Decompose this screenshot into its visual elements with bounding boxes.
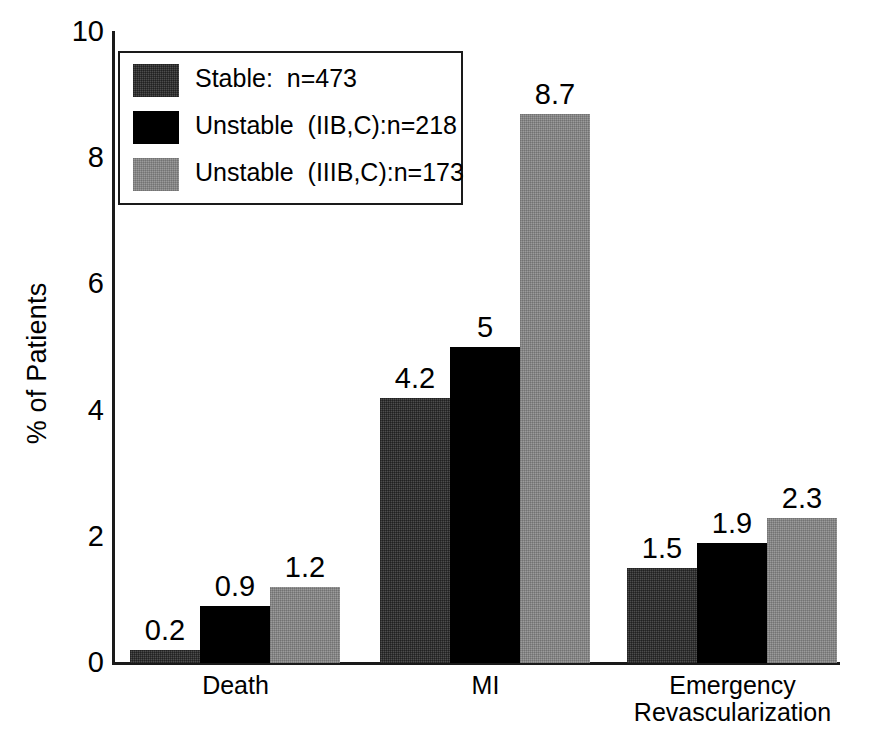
legend-label-unstable-iiib-c: Unstable (IIIB,C):n=173 <box>195 156 464 189</box>
x-category-emergency-line1: Emergency <box>627 672 838 699</box>
legend-label-unstable-iib-c: Unstable (IIB,C):n=218 <box>195 109 457 142</box>
y-tick-2: 2 <box>20 522 104 551</box>
legend-swatch-unstable-iib-c-icon <box>133 111 179 144</box>
x-category-death: Death <box>130 672 341 699</box>
bar-label-emergency-unstable2: 1.9 <box>687 509 777 538</box>
bar-label-death-stable: 0.2 <box>120 616 210 645</box>
legend-swatch-stable-icon <box>133 64 179 97</box>
y-tick-6: 6 <box>20 269 104 298</box>
y-axis-ticks: 10 8 6 4 2 0 <box>0 0 104 751</box>
x-category-emergency-revascularization: Emergency Revascularization <box>627 672 838 726</box>
bar-label-mi-unstable2: 5 <box>440 313 530 342</box>
x-category-mi-line1: MI <box>380 672 591 699</box>
legend-swatch-unstable-iiib-c-icon <box>133 158 179 191</box>
bar-label-emergency-unstable3: 2.3 <box>757 484 847 513</box>
y-tick-4: 4 <box>20 396 104 425</box>
y-tick-8: 8 <box>20 143 104 172</box>
bar-label-death-unstable3: 1.2 <box>260 553 350 582</box>
bar-death-unstable2[interactable] <box>200 606 270 663</box>
x-category-death-line1: Death <box>130 672 341 699</box>
bar-label-mi-unstable3: 8.7 <box>510 80 600 109</box>
x-category-mi: MI <box>380 672 591 699</box>
bar-death-unstable3[interactable] <box>270 587 340 663</box>
bar-label-emergency-stable: 1.5 <box>617 534 707 563</box>
bar-label-mi-stable: 4.2 <box>370 364 460 393</box>
bar-mi-unstable3[interactable] <box>520 114 590 663</box>
bar-emergency-unstable3[interactable] <box>767 518 837 663</box>
bar-emergency-unstable2[interactable] <box>697 543 767 663</box>
y-tick-10: 10 <box>20 17 104 46</box>
legend-label-stable: Stable: n=473 <box>195 62 357 95</box>
legend: Stable: n=473 Unstable (IIB,C):n=218 Uns… <box>118 51 463 205</box>
bar-chart: % of Patients 10 8 6 4 2 0 0.2 0.9 1.2 4… <box>0 0 873 751</box>
bar-mi-unstable2[interactable] <box>450 347 520 663</box>
bar-group-emergency-revascularization: 1.5 1.9 2.3 <box>627 31 838 663</box>
bar-death-stable[interactable] <box>130 650 200 663</box>
x-category-emergency-line2: Revascularization <box>627 699 838 726</box>
y-tick-0: 0 <box>20 648 104 677</box>
bar-emergency-stable[interactable] <box>627 568 697 663</box>
bar-mi-stable[interactable] <box>380 398 450 663</box>
